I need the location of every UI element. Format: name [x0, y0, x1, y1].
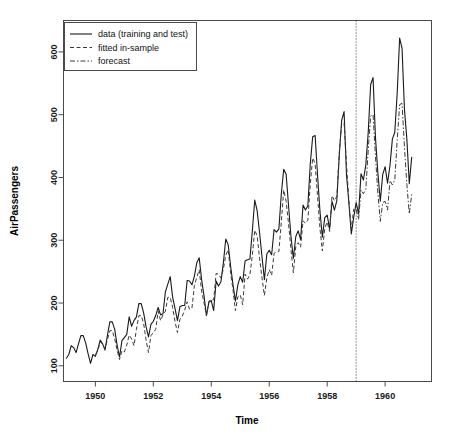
x-tick-label: 1956 — [259, 391, 279, 401]
y-tick-label: 600 — [49, 44, 59, 59]
plot-area — [66, 21, 411, 382]
legend-label: fitted in-sample — [98, 43, 159, 53]
y-tick-label: 100 — [49, 358, 59, 373]
x-axis-title: Time — [235, 415, 259, 426]
x-tick-label: 1960 — [375, 391, 395, 401]
series-line-fitted — [95, 123, 353, 360]
series-line-forecast — [356, 103, 412, 221]
x-tick-label: 1950 — [85, 391, 105, 401]
x-tick-label: 1958 — [317, 391, 337, 401]
x-tick-label: 1952 — [143, 391, 163, 401]
y-axis-title: AirPassengers — [9, 166, 20, 236]
legend-label: forecast — [98, 56, 131, 66]
chart-legend: data (training and test)fitted in-sample… — [65, 23, 197, 71]
y-axis-ticks: 100200300400500600 — [49, 44, 64, 373]
x-axis-ticks: 195019521954195619581960 — [85, 382, 395, 401]
y-tick-label: 400 — [49, 170, 59, 185]
legend-label: data (training and test) — [98, 29, 188, 39]
airpassengers-forecast-chart: 195019521954195619581960 100200300400500… — [0, 0, 456, 442]
y-tick-label: 200 — [49, 296, 59, 311]
y-tick-label: 500 — [49, 107, 59, 122]
chart-canvas: 195019521954195619581960 100200300400500… — [0, 0, 456, 442]
y-tick-label: 300 — [49, 233, 59, 248]
x-tick-label: 1954 — [201, 391, 221, 401]
plot-frame — [64, 21, 432, 382]
